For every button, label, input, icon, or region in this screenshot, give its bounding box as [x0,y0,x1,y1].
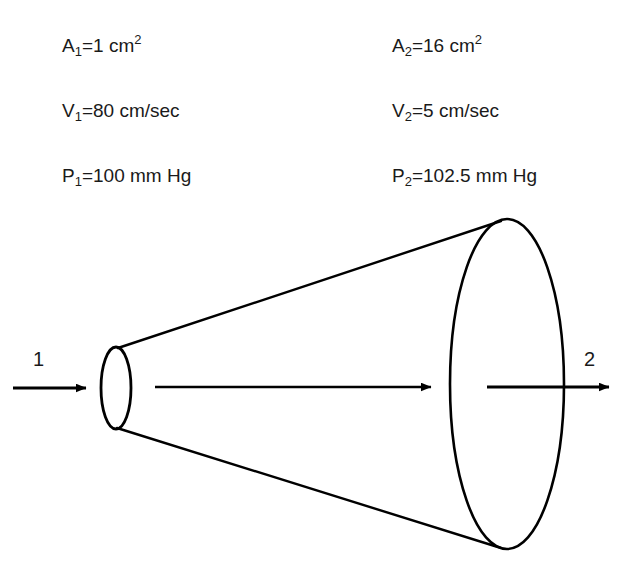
flow-tube-figure [0,0,639,567]
inlet-cross-section-ellipse [101,347,131,429]
upper-taper-line [118,221,501,348]
diagram-canvas: A1=1 cm2 V1=80 cm/sec P1=100 mm Hg A2=16… [0,0,639,567]
lower-taper-line [117,428,501,548]
outlet-cross-section-ellipse [450,219,564,549]
